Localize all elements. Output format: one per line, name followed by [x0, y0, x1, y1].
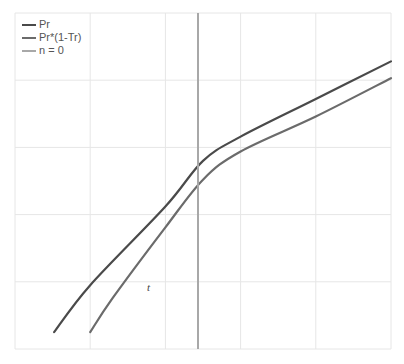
- legend: Pr Pr*(1-Tr) n = 0: [22, 18, 81, 57]
- series-lines: [54, 13, 391, 349]
- legend-swatch-pr-tr: [22, 37, 36, 39]
- legend-item-pr-tr: Pr*(1-Tr): [22, 31, 81, 44]
- legend-label: n = 0: [39, 44, 64, 57]
- legend-label: Pr*(1-Tr): [39, 31, 81, 44]
- legend-item-n0: n = 0: [22, 44, 81, 57]
- legend-label: Pr: [39, 18, 50, 31]
- legend-swatch-n0: [22, 50, 36, 52]
- legend-item-pr: Pr: [22, 18, 81, 31]
- legend-swatch-pr: [22, 24, 36, 26]
- series-line-pr: [54, 61, 391, 332]
- annotation-t: t: [147, 281, 150, 293]
